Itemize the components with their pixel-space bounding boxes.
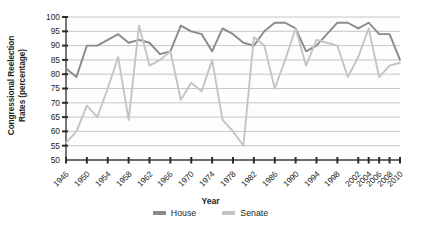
legend-item-house[interactable]: House <box>153 208 196 218</box>
chart-legend: HouseSenate <box>0 208 421 218</box>
legend-swatch-senate <box>222 211 235 214</box>
gridlines <box>66 17 400 160</box>
legend-item-senate[interactable]: Senate <box>222 208 268 218</box>
legend-swatch-house <box>153 211 166 214</box>
x-axis-title: Year <box>0 196 421 206</box>
chart-figure: Congressional Reelection Rates (percenta… <box>0 0 421 226</box>
legend-label-senate: Senate <box>240 208 268 218</box>
legend-label-house: House <box>171 208 196 218</box>
plot-area <box>0 0 421 226</box>
